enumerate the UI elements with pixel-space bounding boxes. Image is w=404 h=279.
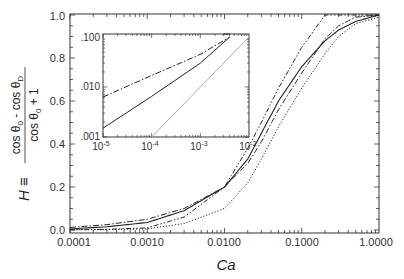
inset-x-tick-labels: 10-5 10-4 10-3 10-2 xyxy=(92,140,256,152)
y-tick-5: 1.0 xyxy=(50,10,65,22)
inset-y-tick-2: .100 xyxy=(81,32,101,43)
inset-plot-frame xyxy=(103,34,249,137)
x-tick-0: 0.0001 xyxy=(57,236,91,248)
x-tick-labels: 0.0001 0.0010 0.0100 0.1000 1.0000 xyxy=(57,236,393,248)
y-axis-H: H ≡ xyxy=(15,177,32,201)
inset-y-tick-labels: .001 .010 .100 xyxy=(81,32,101,142)
y-tick-0: 0.0 xyxy=(50,224,65,236)
inset-x-tick-0: 10-5 xyxy=(92,140,109,152)
y-tick-2: 0.4 xyxy=(50,138,65,150)
inset-x-tick-2: 10-3 xyxy=(190,140,207,152)
x-axis-title: Ca xyxy=(216,256,235,273)
x-tick-3: 0.1000 xyxy=(285,236,319,248)
y-tick-3: 0.6 xyxy=(50,95,65,107)
y-tick-labels: 0.0 0.2 0.4 0.6 0.8 1.0 xyxy=(50,10,65,236)
y-tick-4: 0.8 xyxy=(50,52,65,64)
y-axis-numerator: cos θ0 - cos θD xyxy=(9,76,25,155)
inset-x-tick-1: 10-4 xyxy=(141,140,158,152)
inset-x-tick-3: 10-2 xyxy=(239,140,256,152)
x-tick-4: 1.0000 xyxy=(359,236,393,248)
y-tick-1: 0.2 xyxy=(50,181,65,193)
x-tick-1: 0.0010 xyxy=(130,236,164,248)
y-axis-title: H ≡ cos θ0 - cos θD cos θ0 + 1 xyxy=(9,67,43,201)
inset-y-tick-1: .010 xyxy=(81,81,101,92)
chart-figure: 0.0 0.2 0.4 0.6 0.8 1.0 0.0001 0.0010 0.… xyxy=(0,0,404,279)
x-tick-2: 0.0100 xyxy=(207,236,241,248)
y-axis-denominator: cos θ0 + 1 xyxy=(27,88,43,142)
